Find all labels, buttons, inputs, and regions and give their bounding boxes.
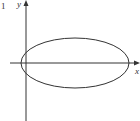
x-axis-arrow-icon <box>134 61 140 66</box>
corner-mark: 1 <box>1 1 6 11</box>
y-axis-label: y <box>16 0 21 9</box>
x-axis-label: x <box>134 66 139 76</box>
y-axis-arrow-icon <box>24 0 29 6</box>
diagram-canvas: 1 y x <box>0 0 140 121</box>
ellipse-diagram: 1 y x <box>0 0 140 121</box>
